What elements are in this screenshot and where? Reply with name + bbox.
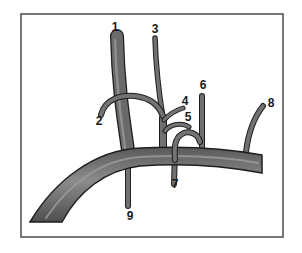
label-8: 8 [268, 96, 275, 110]
label-4: 4 [182, 94, 189, 108]
label-2: 2 [96, 114, 103, 128]
label-1: 1 [112, 20, 119, 34]
label-7: 7 [172, 177, 179, 191]
vessel-diagram: 1 2 3 4 5 6 7 8 9 [0, 0, 302, 253]
label-6: 6 [200, 78, 207, 92]
label-9: 9 [127, 209, 134, 223]
label-5: 5 [185, 110, 192, 124]
label-3: 3 [152, 22, 159, 36]
